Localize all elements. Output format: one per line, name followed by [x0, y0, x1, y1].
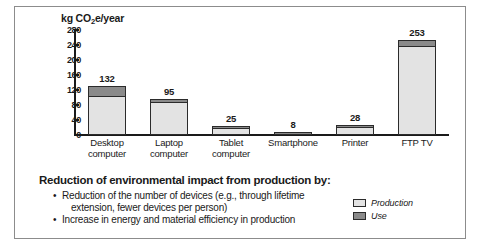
bar-value-label: 28 [324, 112, 386, 123]
plot-area: kg CO2e/year 28024020016012080400 132952… [15, 7, 467, 172]
bullet-line-2: extension, fewer devices per person) [62, 202, 353, 214]
bar-value-label: 132 [76, 73, 138, 84]
bar-segment-use [151, 100, 187, 103]
bar-series-container: 1329525828253 [76, 30, 449, 135]
y-axis-title: kg CO2e/year [61, 12, 124, 24]
bar-segment-use [399, 41, 435, 47]
legend-swatch-icon [353, 199, 366, 207]
bar-stack[interactable] [150, 99, 188, 135]
legend-swatch-icon [353, 212, 366, 220]
bullet-line-1: Increase in energy and material efficien… [62, 214, 295, 225]
legend-label: Use [371, 211, 387, 221]
bar-stack[interactable] [336, 125, 374, 136]
bar-group: 8 [262, 30, 324, 135]
list-item: Increase in energy and material efficien… [53, 214, 353, 226]
bar-stack[interactable] [398, 40, 436, 135]
bar-group: 253 [386, 30, 448, 135]
bar-group: 25 [200, 30, 262, 135]
legend-item: Use [353, 211, 447, 221]
text-block: Reduction of environmental impact from p… [15, 171, 467, 240]
bar-stack[interactable] [274, 132, 312, 135]
reduction-heading: Reduction of environmental impact from p… [39, 174, 331, 186]
bar-segment-use [89, 87, 125, 98]
chart-figure: kg CO2e/year 28024020016012080400 132952… [14, 6, 466, 239]
y-axis-title-suffix: e/year [95, 12, 124, 24]
bar-segment-use [275, 133, 311, 135]
legend-label: Production [371, 198, 413, 208]
list-item: Reduction of the number of devices (e.g.… [53, 190, 353, 213]
bullet-list: Reduction of the number of devices (e.g.… [53, 190, 353, 227]
x-axis-category-label: FTP TV [378, 138, 456, 149]
legend-item: Production [353, 198, 447, 208]
bar-stack[interactable] [88, 86, 126, 136]
bar-value-label: 8 [262, 119, 324, 130]
bar-group: 132 [76, 30, 138, 135]
bar-value-label: 25 [200, 113, 262, 124]
y-axis-title-subscript: 2 [91, 17, 95, 26]
bar-value-label: 253 [386, 27, 448, 38]
bullet-line-1: Reduction of the number of devices (e.g.… [62, 190, 304, 201]
bar-segment-use [337, 126, 373, 128]
y-axis-title-prefix: kg CO [61, 12, 91, 24]
category-label-line-1: FTP TV [378, 138, 456, 149]
chart-legend: ProductionUse [353, 198, 447, 224]
bar-group: 95 [138, 30, 200, 135]
bar-value-label: 95 [138, 86, 200, 97]
bar-segment-use [213, 127, 249, 129]
category-label-line-2: computer [192, 149, 270, 160]
bar-stack[interactable] [212, 126, 250, 135]
bar-group: 28 [324, 30, 386, 135]
